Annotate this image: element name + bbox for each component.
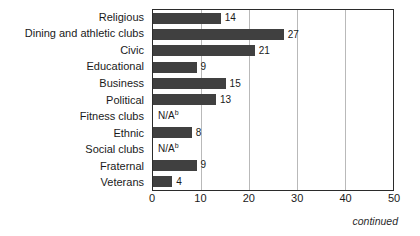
bar-chart-figure: Religious Dining and athletic clubs Civi… [0,0,420,236]
bar-row: N/Ab [153,108,393,124]
bar-value-label: 21 [259,46,270,56]
bars-layer: 14272191513N/Ab8N/Ab94 [153,10,393,190]
category-label: Ethnic [113,128,144,139]
category-label: Educational [87,61,145,72]
bar-row: 4 [153,174,393,190]
bar-row: 27 [153,26,393,42]
category-label-row: Educational [0,59,148,76]
x-tick-label: 50 [388,193,400,204]
bar [153,45,255,56]
bar-missing-label: N/Ab [158,111,179,121]
bar-value-label: 13 [220,95,231,105]
bar-value-label: 9 [201,160,207,170]
x-tick-label: 10 [194,193,206,204]
category-label-row: Fitness clubs [0,108,148,125]
bar [153,94,216,105]
x-tick-label: 30 [291,193,303,204]
bar-value-label: 9 [201,62,207,72]
category-label-row: Civic [0,42,148,59]
bar [153,160,197,171]
category-label: Dining and athletic clubs [25,28,144,39]
bar-value-label: 27 [288,30,299,40]
category-label: Veterans [101,177,144,188]
category-label-row: Ethnic [0,125,148,142]
category-label-row: Fraternal [0,158,148,175]
bar-row: 21 [153,43,393,59]
plot-area: 14272191513N/Ab8N/Ab94 [152,9,394,191]
category-label: Business [99,78,144,89]
bar-value-label: 15 [230,79,241,89]
bar-row: 14 [153,10,393,26]
x-axis-tick-labels: 01020304050 [152,191,394,207]
bar-row: 15 [153,75,393,91]
category-label: Religious [99,12,144,23]
bar-value-label: 4 [176,177,182,187]
x-tick-label: 20 [243,193,255,204]
bar-missing-label: N/Ab [158,144,179,154]
category-axis-labels: Religious Dining and athletic clubs Civi… [0,9,148,191]
bar-row: 9 [153,59,393,75]
bar [153,29,284,40]
category-label: Social clubs [85,144,144,155]
bar [153,13,221,24]
bar [153,176,172,187]
category-label: Civic [120,45,144,56]
bar-row: N/Ab [153,141,393,157]
bar [153,62,197,73]
bar-row: 13 [153,92,393,108]
category-label: Fitness clubs [80,111,144,122]
category-label-row: Business [0,75,148,92]
bar [153,127,192,138]
x-tick-label: 0 [149,193,155,204]
category-label-row: Political [0,92,148,109]
category-label-row: Social clubs [0,141,148,158]
category-label-row: Veterans [0,174,148,191]
category-label: Fraternal [100,161,144,172]
x-tick-label: 40 [339,193,351,204]
bar-row: 9 [153,157,393,173]
continued-note: continued [352,216,398,227]
bar-row: 8 [153,125,393,141]
category-label-row: Religious [0,9,148,26]
plot-inner: 14272191513N/Ab8N/Ab94 [153,10,393,190]
category-label: Political [106,95,144,106]
bar-value-label: 14 [225,13,236,23]
category-label-row: Dining and athletic clubs [0,26,148,43]
bar-value-label: 8 [196,128,202,138]
bar [153,78,226,89]
